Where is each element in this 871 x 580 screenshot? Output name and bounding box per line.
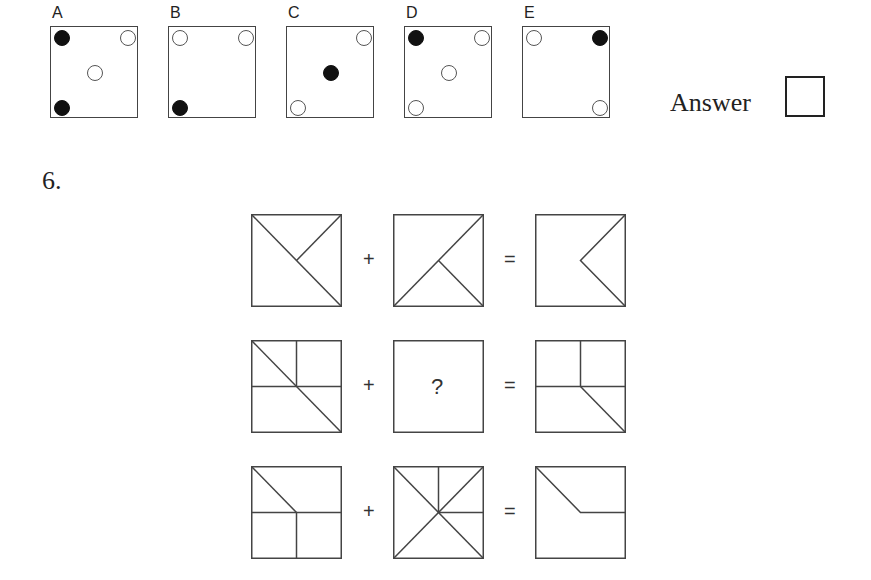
option-label-b: B — [170, 4, 181, 22]
answer-label: Answer — [670, 88, 751, 118]
option-b-figure[interactable] — [168, 26, 256, 118]
hollow-circle-icon — [356, 30, 372, 46]
row3-result-figure — [535, 466, 626, 559]
row1-middle-figure — [393, 214, 484, 307]
row2-result-figure — [535, 340, 626, 433]
hollow-circle-icon — [120, 30, 136, 46]
option-a-figure[interactable] — [50, 26, 138, 118]
hollow-circle-icon — [526, 30, 542, 46]
answer-input-box[interactable] — [785, 76, 825, 117]
hollow-circle-icon — [441, 65, 457, 81]
option-d-figure[interactable] — [404, 26, 492, 118]
hollow-circle-icon — [408, 100, 424, 116]
filled-circle-icon — [54, 100, 70, 116]
option-label-a: A — [52, 4, 63, 22]
square-lines-icon — [251, 466, 342, 559]
filled-circle-icon — [54, 30, 70, 46]
filled-circle-icon — [323, 65, 339, 81]
question-mark: ? — [431, 374, 443, 400]
equals-sign: = — [504, 500, 516, 523]
equals-sign: = — [504, 248, 516, 271]
square-lines-icon — [251, 214, 342, 307]
option-c-figure[interactable] — [286, 26, 374, 118]
option-label-c: C — [288, 4, 300, 22]
hollow-circle-icon — [474, 30, 490, 46]
option-label-d: D — [406, 4, 418, 22]
hollow-circle-icon — [592, 100, 608, 116]
question-number: 6. — [42, 166, 62, 196]
plus-sign: + — [363, 248, 375, 271]
plus-sign: + — [363, 500, 375, 523]
hollow-circle-icon — [172, 30, 188, 46]
plus-sign: + — [363, 374, 375, 397]
option-label-e: E — [524, 4, 535, 22]
square-lines-icon — [535, 214, 626, 307]
row2-left-figure — [251, 340, 342, 433]
square-lines-icon — [393, 466, 484, 559]
row3-middle-figure — [393, 466, 484, 559]
square-lines-icon — [393, 214, 484, 307]
filled-circle-icon — [592, 30, 608, 46]
hollow-circle-icon — [238, 30, 254, 46]
square-lines-icon — [535, 340, 626, 433]
row1-left-figure — [251, 214, 342, 307]
row2-unknown-figure[interactable]: ? — [393, 340, 484, 433]
square-lines-icon — [535, 466, 626, 559]
row1-result-figure — [535, 214, 626, 307]
option-e-figure[interactable] — [522, 26, 610, 118]
hollow-circle-icon — [87, 65, 103, 81]
filled-circle-icon — [172, 100, 188, 116]
equals-sign: = — [504, 374, 516, 397]
row3-left-figure — [251, 466, 342, 559]
square-lines-icon — [251, 340, 342, 433]
filled-circle-icon — [408, 30, 424, 46]
hollow-circle-icon — [290, 100, 306, 116]
